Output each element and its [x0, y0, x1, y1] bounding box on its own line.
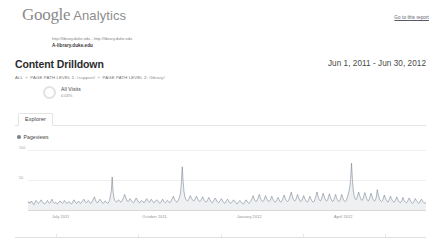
top-bar: GoogleAnalytics Go to this report: [0, 0, 439, 30]
segment-label: All Visits: [61, 86, 81, 93]
segment-row: All Visits 0.03%: [0, 85, 439, 107]
pageviews-line-chart[interactable]: [28, 145, 426, 211]
bottom-tick: [303, 234, 304, 237]
google-wordmark: Google: [22, 5, 70, 24]
breadcrumb-level1-value[interactable]: /support/: [77, 75, 95, 80]
tab-explorer[interactable]: Explorer: [18, 113, 53, 126]
breadcrumb-level2-value[interactable]: /library/: [149, 75, 164, 80]
breadcrumb-separator-icon-2: »: [97, 75, 102, 80]
bottom-tick: [385, 234, 386, 237]
y-axis-label-top: 100: [19, 146, 25, 150]
segment-value: 0.03%: [61, 93, 81, 98]
google-analytics-logo: GoogleAnalytics: [22, 5, 126, 25]
breadcrumb-level1-label: PAGE PATH LEVEL 1:: [30, 75, 76, 80]
property-info: http://library.duke.edu - http://library…: [52, 36, 132, 49]
segment-all-visits[interactable]: All Visits 0.03%: [43, 86, 81, 99]
x-axis-tick-label: July 2011: [52, 214, 69, 219]
x-axis-labels: July 2011October 2011January 2012April 2…: [28, 214, 426, 222]
x-axis-tick-label: April 2012: [334, 214, 353, 219]
page-title: Content Drilldown: [15, 58, 104, 70]
analytics-wordmark: Analytics: [73, 8, 126, 23]
breadcrumb-level2-label: PAGE PATH LEVEL 2:: [102, 75, 148, 80]
legend-dot-icon: [17, 135, 21, 139]
segment-text: All Visits 0.03%: [61, 86, 81, 98]
pageviews-chart-panel: Pageviews 100 50 July 2011October 2011Ja…: [15, 134, 426, 226]
legend-label-pageviews: Pageviews: [24, 134, 49, 140]
breadcrumb: ALL » PAGE PATH LEVEL 1: /support/ » PAG…: [15, 75, 165, 80]
property-url: http://library.duke.edu - http://library…: [52, 36, 132, 42]
property-name: A-library.duke.edu: [52, 43, 132, 50]
y-axis-label-mid: 50: [19, 176, 23, 180]
go-to-report-link[interactable]: Go to this report: [394, 15, 429, 20]
bottom-tick: [138, 234, 139, 237]
x-axis-tick-label: October 2011: [142, 214, 167, 219]
tab-strip-rule: [15, 125, 426, 126]
chart-plot-area: 100 50: [15, 145, 426, 213]
x-axis-tick-label: January 2012: [237, 214, 262, 219]
bottom-tick: [56, 234, 57, 237]
bottom-tick: [221, 234, 222, 237]
date-range-selector[interactable]: Jun 1, 2011 - Jun 30, 2012: [328, 59, 426, 68]
breadcrumb-separator-icon: »: [24, 75, 29, 80]
breadcrumb-root[interactable]: ALL: [15, 75, 23, 80]
tab-strip: Explorer: [0, 112, 439, 126]
donut-icon: [43, 86, 56, 99]
chart-legend[interactable]: Pageviews: [17, 134, 49, 140]
bottom-divider: [15, 237, 426, 238]
